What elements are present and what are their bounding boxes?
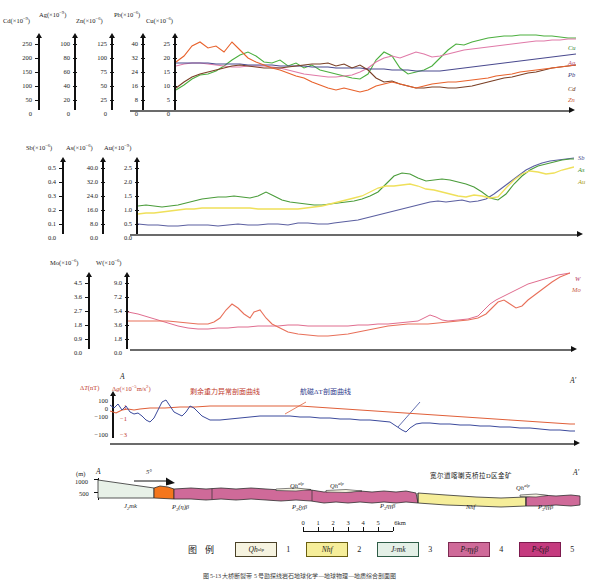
series-label-au: Au [578,178,585,185]
legend-num-4: 4 [499,545,503,554]
unit-label-p3-mid: P3ξγβ [292,503,307,512]
scale-tick-3: 3 [341,519,355,526]
scale-tick-6km: 6km [388,519,412,526]
legend-swatch-p3-xigb: P3ξγβ [519,542,561,557]
axis-title-cu: Cu(×10−6) [146,16,173,24]
series-label-sb: Sb [578,154,585,161]
scale-tick-2: 2 [326,519,340,526]
scale-tick-5: 5 [371,519,385,526]
panel-geophysics: A A′ ΔT(nT) Δg(×10−5m/s2) 100 0 −100 −10… [0,372,599,450]
legend-num-2: 2 [357,545,361,554]
panel2-baseline [130,234,578,236]
series-label-ag: Ag [568,59,575,66]
legend-swatch-qh: Qhalp [235,542,277,557]
legend-swatch-j2mk: J2mk [377,542,419,557]
figure-caption: 图 5-13 大桥断裂带 5 号勘探线岩石地球化学—地球物理—地质综合剖面图 [0,571,599,580]
unit-label-qh-1: Qhalp [290,481,304,489]
axis-title-gravity: Δg(×10−5m/s2) [112,384,151,392]
series-label-zn: Zn [568,96,575,103]
legend-swatch-nhf: Nhf [306,542,348,557]
panel4-baseline [110,443,575,445]
curve-sb [138,158,574,226]
legend: 图 例 Qhalp 1 Nhf 2 J2mk 3 P3ηγβ 4 P3ξγβ 5 [188,542,590,557]
scale-tick-1: 1 [311,519,325,526]
panel3-baseline [130,349,572,351]
legend-num-1: 1 [286,545,290,554]
panel-ore-elements: Cd(×10−9) 250 200 150 100 50 0 Ag(×10−9) [0,8,599,116]
composite-profile-figure: Cd(×10−9) 250 200 150 100 50 0 Ag(×10−9) [0,0,599,583]
series-label-mo: Mo [572,286,581,293]
unit-intrusive [154,486,174,499]
axis-title-zn: Zn(×10−6) [76,16,103,24]
axis-title-pb: Pb(×10−6) [114,10,140,18]
elevation-1000-label: 1000 [75,478,88,485]
series-label-cu: Cu [568,44,576,51]
mo-w-curves [128,270,570,350]
axis-title-sb: Sb(×10−6) [26,143,52,151]
scale-tick-0: 0 [296,519,310,526]
series-label-as: As [578,166,585,173]
sb-as-au-curves [138,154,574,236]
axis-title-cd: Cd(×10−9) [3,16,30,24]
series-label-cd: Cd [568,85,576,92]
series-label-w: W [575,275,580,282]
panel-mo-w: Mo(×10−6) 4.5 3.6 2.7 1.8 0.9 0.0 W(×10−… [0,256,599,352]
unit-label-p3-mid2: P3ηγβ [380,502,395,511]
unit-label-qh-2: Qhalp [330,481,344,489]
series-label-pb: Pb [568,71,575,78]
panel-sb-as-au: Sb(×10−6) 0.5 0.4 0.3 0.2 0.1 0.0 As(×10… [0,140,599,240]
panel4-axis-arrow [574,440,580,446]
axis-title-mo: Mo(×10−6) [50,258,78,266]
panel2-axis-arrow [577,231,583,237]
panel1-baseline [130,110,570,112]
legend-swatch-p3-etagb: P3ηγβ [448,542,490,557]
unit-label-qh-3: Qhalp [516,483,530,491]
panel3-axis-arrow [571,346,577,352]
elevation-500-label: 500 [79,490,89,497]
unit-j2mk [98,480,154,498]
dip-angle-label: 5° [146,468,152,475]
scale-bar: 0 1 2 3 4 5 6km [300,519,420,539]
legend-num-5: 5 [570,545,574,554]
axis-title-w: W(×10−6) [96,258,122,266]
axis-title-ag: Ag(×10−9) [39,10,66,18]
section-start-label: A [96,467,101,476]
legend-title: 图 例 [188,543,217,556]
unit-label-nhf: Nhf [466,503,475,510]
section-start-label-geophys: A [120,372,125,381]
panel-cross-section: (m) A A′ 1000 500 5° 宽尔道喀喇克桥拉D区金矿 [0,458,599,528]
unit-label-p3-right: P3ηγβ [538,503,553,512]
elevation-unit-label: (m) [76,470,85,477]
ore-element-curves [176,30,576,112]
legend-num-3: 3 [428,545,432,554]
geophysics-curves [110,394,575,446]
panel1-axis-arrow [569,107,575,113]
axis-title-magnetic: ΔT(nT) [80,384,99,391]
curve-magnetic [110,400,575,432]
unit-label-j2mk: J2mk [124,502,137,511]
scale-tick-4: 4 [356,519,370,526]
unit-label-p3-left: P3(η)β [172,503,189,512]
axis-title-au: Au(×10−9) [104,143,131,151]
axis-title-as: As(×10−6) [66,143,93,151]
curve-mo [128,273,570,336]
curve-w [128,273,570,329]
section-end-label-geophys: A′ [570,376,576,385]
